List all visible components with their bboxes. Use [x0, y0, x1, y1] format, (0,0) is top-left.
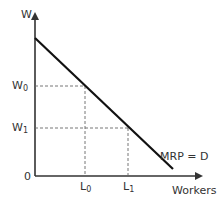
w1-label: W1	[12, 122, 28, 135]
labour-demand-chart	[0, 0, 223, 207]
l1-label: L1	[123, 181, 134, 194]
y-axis-label: W	[21, 9, 32, 20]
mrp-demand-curve	[35, 38, 173, 169]
w0-label: W0	[12, 80, 28, 93]
l0-label: L0	[80, 181, 91, 194]
x-axis-label: Workers	[172, 185, 216, 196]
curve-label: MRP = D	[160, 151, 208, 162]
origin-label: 0	[24, 171, 31, 182]
